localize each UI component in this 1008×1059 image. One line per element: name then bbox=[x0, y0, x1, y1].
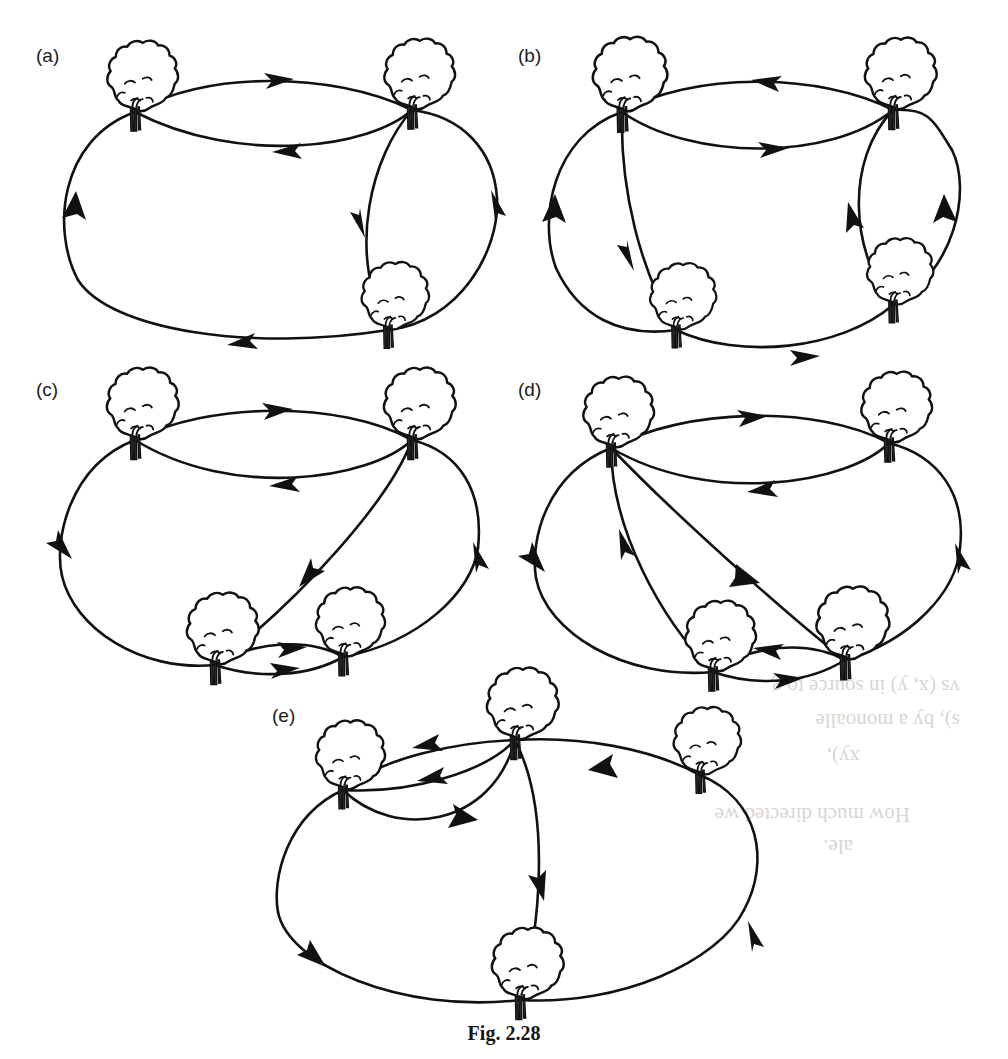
panel-a-edge-inner-chord bbox=[135, 110, 412, 146]
panel-c-arrowhead-diagonal-down bbox=[299, 558, 325, 587]
panel-c-tree-bottom-left bbox=[187, 593, 259, 685]
panel-d-arrowhead-left-down bbox=[518, 542, 545, 572]
panel-d-edge-left-upper bbox=[535, 448, 611, 578]
panel-b-edge-inner-chord bbox=[622, 110, 893, 149]
panel-b-arrowhead-chord-right bbox=[758, 142, 789, 158]
figure-caption: Fig. 2.28 bbox=[468, 1022, 541, 1045]
panel-a-tree-top-left bbox=[107, 41, 178, 132]
panel-b-arrowhead-top-left bbox=[751, 76, 782, 92]
panel-b-arrowhead-bottom-right bbox=[790, 350, 820, 366]
panel-e-arrowhead-left-down bbox=[297, 940, 326, 967]
panel-c-tree-bottom-right bbox=[316, 587, 385, 675]
panel-a-tree-bottom bbox=[362, 262, 429, 348]
panel-a-arrowhead-right-up bbox=[491, 190, 506, 220]
panel-b-label: (b) bbox=[518, 45, 541, 66]
panel-b-tree-bottom-left bbox=[650, 263, 716, 348]
panel-d-arrowhead-diagonal-down bbox=[729, 564, 760, 587]
panel-a: (a) bbox=[36, 39, 506, 349]
panel-c: (c) bbox=[36, 368, 489, 685]
ghost-line-2: s), by a monoalle bbox=[815, 709, 960, 733]
panel-c-edge-left-upper bbox=[60, 440, 135, 576]
panel-b-edge-right-upper bbox=[893, 110, 952, 150]
panel-e: (e) bbox=[272, 668, 764, 1020]
panel-e-arrowhead-middle-left bbox=[417, 767, 448, 784]
background-showthrough-text: vs (x, y) in source to g s), by a monoal… bbox=[715, 675, 960, 859]
panel-a-tree-top-right bbox=[384, 39, 455, 130]
panel-c-arrowhead-bottom-right bbox=[270, 663, 300, 679]
panel-b-tree-bottom-right bbox=[867, 238, 933, 323]
panel-d-label: (d) bbox=[518, 379, 541, 400]
panel-c-arrowhead-right-up bbox=[473, 542, 489, 573]
panel-e-tree-top bbox=[487, 668, 559, 760]
panel-e-arrowhead-top-left bbox=[412, 734, 443, 751]
panel-d-tree-bottom-right bbox=[816, 586, 889, 679]
panel-e-edge-right-lower bbox=[700, 775, 757, 910]
panel-d-tree-top-right bbox=[861, 372, 932, 463]
panel-a-arrowhead-innerright-down bbox=[350, 208, 365, 238]
panel-e-edge-left-upper bbox=[277, 790, 343, 912]
panel-b-arrowhead-left-up bbox=[542, 194, 566, 223]
panel-c-label: (c) bbox=[36, 379, 58, 400]
panel-a-label: (a) bbox=[36, 45, 59, 66]
panel-d-edge-right-upper bbox=[889, 443, 961, 548]
panel-d-arrowhead-top-right bbox=[737, 410, 768, 427]
panel-e-label: (e) bbox=[272, 705, 295, 726]
panel-d-edge-inner-chord bbox=[611, 443, 889, 483]
panel-c-tree-top-right bbox=[384, 368, 456, 460]
panel-c-edge-inner-chord bbox=[135, 440, 412, 478]
ghost-line-5: ale. bbox=[823, 835, 853, 859]
ghost-line-3: xy), bbox=[827, 745, 860, 769]
panel-d: (d) bbox=[518, 372, 971, 692]
panel-b-arrowhead-vertical-down bbox=[617, 240, 634, 271]
panel-b-edge-left-upper bbox=[549, 112, 622, 268]
panel-e-arrowhead-right-up bbox=[748, 921, 764, 952]
figure-2-28: vs (x, y) in source to g s), by a monoal… bbox=[0, 0, 1008, 1059]
panel-d-tree-bottom-left bbox=[685, 601, 756, 692]
panel-b: (b) bbox=[518, 37, 960, 366]
panel-e-arrowhead-upperright-left bbox=[588, 754, 618, 778]
panel-a-edge-right-upper bbox=[412, 110, 497, 198]
ghost-line-4: How much directed we bbox=[715, 803, 910, 827]
panel-a-edge-bottom bbox=[78, 280, 388, 339]
panel-d-arrowhead-right-up bbox=[955, 543, 971, 574]
panel-e-tree-right bbox=[674, 707, 741, 793]
panel-c-edge-right-upper bbox=[412, 440, 479, 548]
panel-e-tree-bottom bbox=[492, 928, 564, 1020]
panel-b-arrowhead-right-down bbox=[933, 194, 957, 223]
